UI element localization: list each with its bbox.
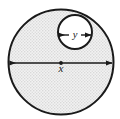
y-label: y bbox=[72, 29, 78, 40]
circle-diagram-svg: x y bbox=[0, 0, 120, 119]
x-label: x bbox=[58, 62, 64, 74]
figure-container: x y bbox=[0, 0, 120, 119]
